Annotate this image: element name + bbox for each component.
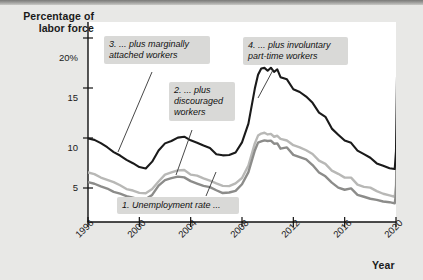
line-chart-plot: [0, 0, 423, 280]
leader-line-involuntary-part-time: [258, 70, 273, 98]
callout-discouraged: 2. ... plus discouraged workers: [169, 82, 235, 121]
callout-involuntary-part-time: 4. ... plus involuntary part-time worker…: [243, 37, 348, 65]
leader-line-marginally-attached: [118, 72, 152, 152]
series-line-plus-involuntary-part-time-workers: [88, 9, 400, 169]
callout-unemployment-rate: 1. Unemployment rate ...: [117, 197, 239, 214]
leader-line-unemployment-rate: [206, 172, 216, 196]
callout-marginally-attached: 3. ... plus marginally attached workers: [104, 36, 210, 64]
figure-container: Percentage of labor force Year 20% 15 10…: [0, 0, 423, 280]
